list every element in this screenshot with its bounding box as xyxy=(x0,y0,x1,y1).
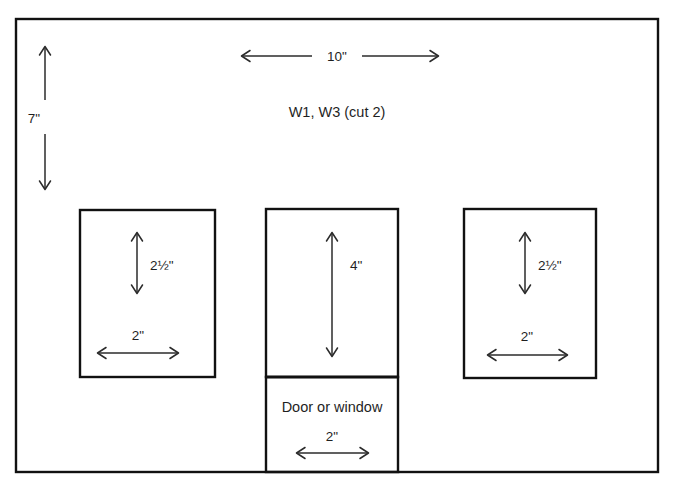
panel-part-label: W1, W3 (cut 2) xyxy=(289,104,386,120)
right-window-height-dimension: 2½" xyxy=(520,233,562,294)
overall-height-dimension: 7" xyxy=(28,47,51,190)
left-window-width-dimension: 2" xyxy=(98,328,179,359)
cutting-pattern-diagram: 7" 10" W1, W3 (cut 2) 2½" xyxy=(0,0,675,495)
center-window-height-label: 4" xyxy=(350,258,363,273)
right-window-width-dimension: 2" xyxy=(488,329,568,361)
overall-width-label: 10" xyxy=(327,49,347,64)
right-window-opening: 2½" 2" xyxy=(464,209,596,378)
left-window-opening: 2½" 2" xyxy=(80,210,215,377)
diagram-canvas: 7" 10" W1, W3 (cut 2) 2½" xyxy=(0,0,675,495)
center-window-opening: 4" xyxy=(266,209,398,377)
left-window-width-label: 2" xyxy=(132,328,145,343)
door-width-dimension: 2" xyxy=(297,429,369,459)
left-window-height-dimension: 2½" xyxy=(132,233,174,294)
door-or-window-label: Door or window xyxy=(282,399,383,415)
left-window-height-label: 2½" xyxy=(150,258,174,273)
center-window-height-dimension: 4" xyxy=(327,233,363,357)
right-window-width-label: 2" xyxy=(521,329,534,344)
overall-width-dimension: 10" xyxy=(242,49,439,64)
door-width-label: 2" xyxy=(326,429,339,444)
door-or-window-section: Door or window 2" xyxy=(266,377,398,472)
right-window-height-label: 2½" xyxy=(538,258,562,273)
overall-height-label: 7" xyxy=(28,111,41,126)
